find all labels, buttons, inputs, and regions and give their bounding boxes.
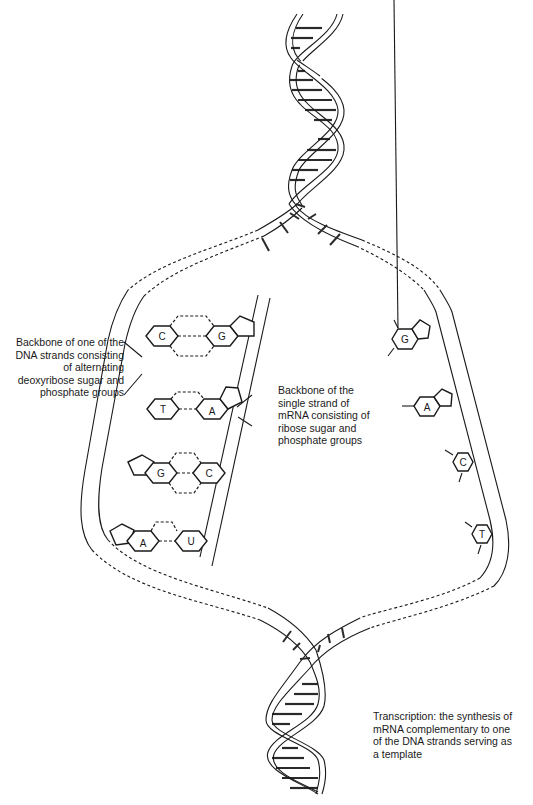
free-base-t: T bbox=[465, 522, 492, 554]
free-base-letter: T bbox=[479, 529, 485, 540]
transcription-diagram: C G T A G C A U bbox=[0, 0, 533, 805]
free-base-c: C bbox=[445, 450, 473, 482]
base-pair-t-a: T A bbox=[147, 387, 242, 419]
dna-base-letter: G bbox=[157, 468, 165, 479]
lower-fork bbox=[260, 608, 370, 668]
free-base-letter: C bbox=[459, 457, 466, 468]
rna-base-letter: A bbox=[209, 406, 216, 417]
bottom-double-helix bbox=[266, 650, 326, 794]
free-base-g: G bbox=[388, 0, 430, 356]
free-base-letter: A bbox=[424, 402, 431, 413]
rna-base-letter: G bbox=[218, 331, 226, 342]
base-pair-g-c: G C bbox=[128, 453, 225, 493]
upper-fork bbox=[128, 204, 440, 296]
dna-backbone-label: Backbone of one of the DNA strands consi… bbox=[4, 336, 124, 399]
transcription-caption: Transcription: the synthesis of mRNA com… bbox=[373, 710, 512, 760]
lower-fork-exposed-bases bbox=[283, 628, 344, 659]
base-pair-a-u: A U bbox=[110, 522, 207, 551]
rna-base-letter: C bbox=[205, 468, 212, 479]
base-pair-c-g: C G bbox=[146, 316, 254, 356]
dna-base-letter: T bbox=[160, 404, 166, 415]
free-base-a: A bbox=[402, 389, 452, 416]
coding-dna-strand bbox=[360, 290, 509, 628]
rna-base-letter: U bbox=[187, 536, 194, 547]
mrna-backbone-label: Backbone of the single strand of mRNA co… bbox=[278, 384, 370, 447]
free-base-letter: G bbox=[401, 334, 409, 345]
top-double-helix bbox=[286, 14, 344, 206]
dna-base-letter: C bbox=[158, 331, 165, 342]
dna-base-letter: A bbox=[140, 538, 147, 549]
